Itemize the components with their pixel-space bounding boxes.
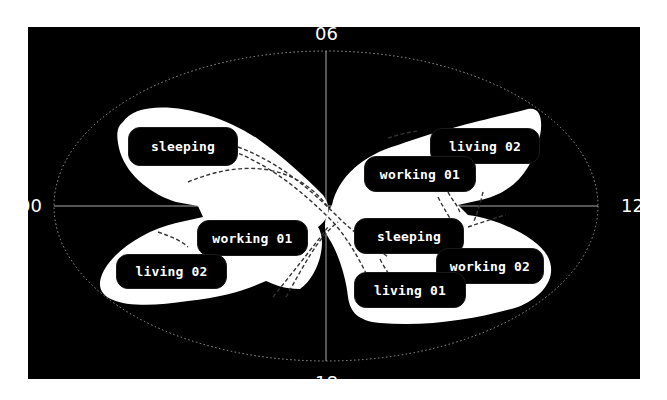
axis-label-top: 06 [315,27,338,43]
node-working-01-left[interactable]: working 01 [197,220,308,256]
diagram-canvas [28,27,640,379]
axis-label-left: 00 [28,197,42,215]
diagram-panel: 06 00 12 18 sleeping working 01 living 0… [28,27,640,379]
axis-label-right: 12 [621,197,640,215]
node-sleeping-left[interactable]: sleeping [128,127,238,166]
node-working-01-right[interactable]: working 01 [364,156,476,192]
node-living-01-right[interactable]: living 01 [354,272,466,308]
node-living-02-left[interactable]: living 02 [116,254,227,289]
axis-label-bottom: 18 [315,374,338,379]
